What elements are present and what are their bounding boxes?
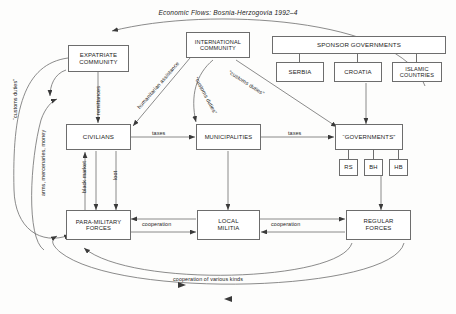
edge-label-loot: loot xyxy=(112,171,118,180)
economic-flows-diagram: Economic Flows: Bosnia-Herzogovia 1992–4 xyxy=(0,0,456,314)
node-local-militia[interactable]: LOCAL MILITIA xyxy=(197,210,260,240)
arrowhead-bottom-outer xyxy=(224,296,232,302)
node-islamic-countries[interactable]: ISLAMIC COUNTRIES xyxy=(392,62,442,82)
node-municipalities-label: MUNICIPALITIES xyxy=(205,134,253,140)
node-hb-label: HB xyxy=(394,164,402,170)
edge-label-cooperation-various: cooperation of various kinds xyxy=(173,276,243,282)
edge-label-black-market: black market xyxy=(81,161,87,193)
edge-label-cooperation-right: cooperation xyxy=(271,221,300,227)
node-regular-forces[interactable]: REGULAR FORCES xyxy=(346,210,411,240)
node-islamic-countries-label: ISLAMIC COUNTRIES xyxy=(400,66,434,79)
node-expatriate-community-label: EXPATRIATE COMMUNITY xyxy=(79,52,117,65)
connector-governments-bh xyxy=(373,150,374,159)
node-international-community-label: INTERNATIONAL COMMUNITY xyxy=(195,39,241,52)
node-bh[interactable]: BH xyxy=(364,159,383,176)
node-governments-label: “GOVERNMENTS” xyxy=(343,134,396,141)
node-international-community[interactable]: INTERNATIONAL COMMUNITY xyxy=(186,32,250,58)
edge-cooperation-various-inner xyxy=(84,243,352,275)
connector-sponsor-islamic xyxy=(416,54,417,62)
edge-label-customs-duties-left: “customs duties” xyxy=(12,79,18,120)
edge-label-remittances: remittances xyxy=(95,86,101,115)
node-rs-label: RS xyxy=(344,164,352,170)
edge-label-taxes-municipalities-governments: taxes xyxy=(288,130,301,136)
node-sponsor-governments-label: SPONSOR GOVERNMENTS xyxy=(317,42,401,49)
node-regular-forces-label: REGULAR FORCES xyxy=(363,218,393,231)
node-expatriate-community[interactable]: EXPATRIATE COMMUNITY xyxy=(68,45,129,72)
node-sponsor-governments[interactable]: SPONSOR GOVERNMENTS xyxy=(272,36,446,54)
node-bh-label: BH xyxy=(369,164,377,170)
connector-governments-hb xyxy=(398,150,399,159)
edge-label-arms-mercenaries-money: arms, mercenaries, money xyxy=(40,130,46,196)
connector-governments-rs xyxy=(348,150,349,159)
node-serbia[interactable]: SERBIA xyxy=(276,62,324,82)
node-croatia[interactable]: CROATIA xyxy=(334,62,382,82)
edge-into-leftband xyxy=(50,70,66,96)
node-municipalities[interactable]: MUNICIPALITIES xyxy=(196,124,261,150)
connector-sponsor-croatia xyxy=(357,54,358,62)
edge-label-cooperation-left: cooperation xyxy=(142,221,171,227)
node-rs[interactable]: RS xyxy=(339,159,358,176)
node-local-militia-label: LOCAL MILITIA xyxy=(217,218,239,231)
node-civilians[interactable]: CIVILIANS xyxy=(66,124,131,150)
node-serbia-label: SERBIA xyxy=(289,69,312,76)
edge-humanitarian-assistance xyxy=(133,58,190,126)
node-hb[interactable]: HB xyxy=(389,159,408,176)
node-civilians-label: CIVILIANS xyxy=(83,134,114,141)
node-para-military-forces-label: PARA-MILITARY FORCES xyxy=(76,219,121,232)
node-para-military-forces[interactable]: PARA-MILITARY FORCES xyxy=(66,210,131,240)
node-croatia-label: CROATIA xyxy=(344,69,371,76)
connector-sponsor-serbia xyxy=(299,54,300,62)
node-governments[interactable]: “GOVERNMENTS” xyxy=(335,124,403,150)
edge-label-taxes-civilians-municipalities: taxes xyxy=(152,130,165,136)
